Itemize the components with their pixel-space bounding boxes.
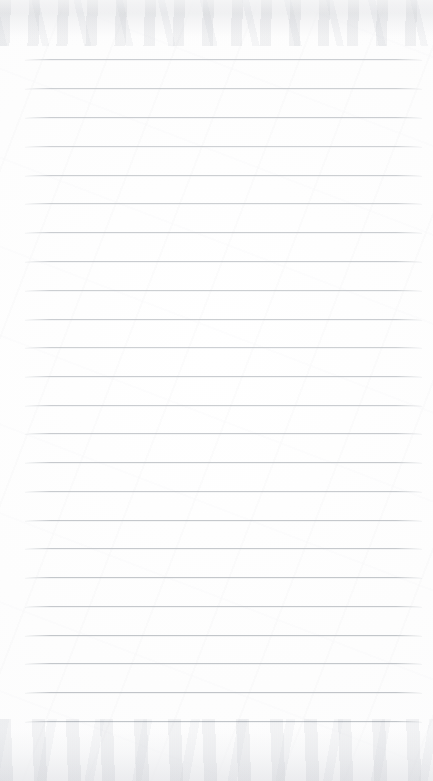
rule-line <box>25 146 422 147</box>
rule-line <box>25 59 422 60</box>
rule-line <box>25 577 422 578</box>
rule-line <box>25 175 422 176</box>
rule-line <box>25 319 422 320</box>
rule-line <box>25 232 422 233</box>
rule-line <box>25 376 422 377</box>
rule-line <box>25 635 422 636</box>
rule-line <box>25 261 422 262</box>
rule-line <box>25 520 422 521</box>
rule-line <box>25 606 422 607</box>
rule-line <box>25 88 422 89</box>
notebook-page <box>0 0 433 781</box>
ruled-lines-layer <box>0 0 433 781</box>
rule-line <box>25 692 422 693</box>
rule-line <box>25 462 422 463</box>
rule-line <box>25 491 422 492</box>
rule-line <box>25 290 422 291</box>
rule-line <box>25 347 422 348</box>
rule-line <box>25 433 422 434</box>
rule-line <box>25 203 422 204</box>
rule-line <box>25 721 422 722</box>
rule-line <box>25 117 422 118</box>
rule-line <box>25 663 422 664</box>
rule-line <box>25 548 422 549</box>
rule-line <box>25 405 422 406</box>
